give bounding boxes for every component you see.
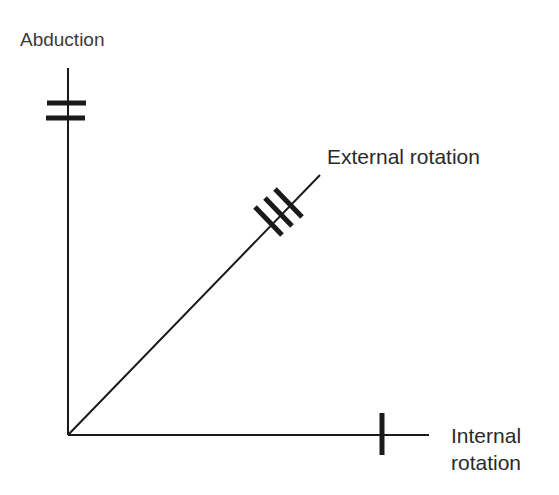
movement-diagram [0, 0, 559, 495]
abduction-label: Abduction [20, 27, 105, 52]
internal-rotation-label: Internal rotation [451, 422, 521, 476]
abduction-tick-marks [46, 103, 86, 118]
external-rotation-label: External rotation [327, 144, 480, 169]
internal-rotation-label-line1: Internal [451, 422, 521, 449]
internal-rotation-label-line2: rotation [451, 449, 521, 476]
external-rotation-tick-marks [255, 189, 302, 235]
